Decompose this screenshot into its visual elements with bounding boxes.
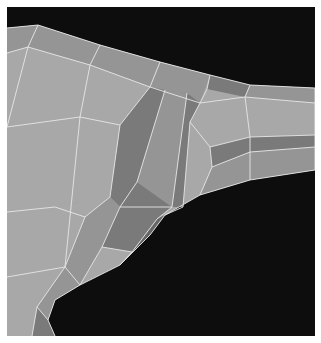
mesh-render: [7, 7, 315, 336]
mesh-face: [245, 97, 315, 137]
3d-viewport[interactable]: [7, 7, 315, 336]
mesh-face: [7, 117, 120, 212]
mesh-faces: [7, 25, 315, 336]
